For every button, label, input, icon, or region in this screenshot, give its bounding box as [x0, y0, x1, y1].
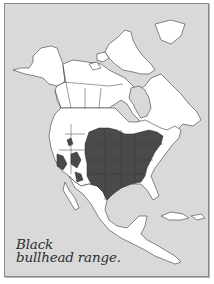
alaska-landmass	[13, 46, 65, 86]
cuba-island	[161, 212, 189, 220]
caption-line-2: bullhead range.	[16, 251, 121, 264]
greenland-edge	[155, 20, 185, 44]
hispaniola-island	[191, 214, 205, 220]
map-caption: Black bullhead range.	[16, 238, 121, 263]
arctic-islands	[105, 30, 155, 74]
map-figure: Black bullhead range.	[4, 3, 209, 277]
